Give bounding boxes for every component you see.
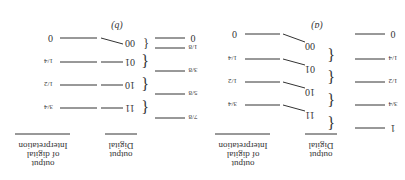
diagram-canvas: (a) 0 1/4 1/2 3/4 1 { { { (0, 0, 405, 180)
svg-text:Digital: Digital (108, 141, 133, 151)
svg-text:10: 10 (125, 80, 135, 91)
svg-text:{: { (143, 37, 149, 51)
svg-text:1/2: 1/2 (388, 77, 397, 85)
svg-text:3/4: 3/4 (44, 103, 53, 111)
svg-text:{: { (327, 47, 335, 64)
svg-text:output: output (109, 150, 133, 160)
svg-text:11: 11 (125, 103, 135, 114)
svg-text:0: 0 (48, 33, 53, 44)
quantization-diagram: (a) 0 1/4 1/2 3/4 1 { { { (0, 0, 405, 180)
svg-text:00: 00 (305, 41, 315, 52)
svg-text:01: 01 (125, 57, 135, 68)
svg-text:{: { (141, 53, 149, 70)
svg-text:10: 10 (305, 87, 315, 98)
panel-a: (a) 0 1/4 1/2 3/4 1 { { { (215, 20, 397, 169)
svg-text:1/4: 1/4 (44, 57, 53, 65)
svg-text:0: 0 (232, 29, 237, 40)
svg-text:of digital: of digital (26, 150, 59, 160)
svg-text:3/4: 3/4 (388, 100, 397, 108)
svg-text:0: 0 (391, 29, 396, 40)
panel-b: (b) 0 1/8 3/8 5/8 7/8 { { { { 00 01 1 (15, 20, 197, 169)
svg-text:output: output (31, 159, 55, 169)
svg-text:0: 0 (191, 33, 196, 44)
svg-text:1/2: 1/2 (228, 77, 237, 85)
svg-text:3/8: 3/8 (188, 66, 197, 74)
svg-text:3/4: 3/4 (228, 100, 237, 108)
svg-text:Interpretation: Interpretation (18, 141, 67, 151)
svg-text:{: { (141, 76, 149, 93)
svg-text:7/8: 7/8 (188, 113, 197, 121)
svg-text:5/8: 5/8 (188, 89, 197, 97)
svg-text:1: 1 (391, 123, 396, 134)
svg-text:1/8: 1/8 (188, 43, 197, 51)
panel-b-label: (b) (111, 20, 123, 32)
svg-text:{: { (141, 99, 149, 116)
svg-text:output: output (231, 159, 255, 169)
svg-text:01: 01 (305, 64, 315, 75)
svg-text:1/4: 1/4 (388, 54, 397, 62)
svg-text:output: output (309, 150, 333, 160)
svg-text:{: { (327, 69, 335, 86)
svg-text:1/4: 1/4 (228, 54, 237, 62)
svg-text:11: 11 (305, 110, 315, 121)
svg-text:{: { (327, 92, 335, 109)
svg-text:1/2: 1/2 (44, 80, 53, 88)
svg-text:00: 00 (125, 38, 135, 49)
panel-a-label: (a) (311, 20, 323, 32)
svg-text:{: { (327, 115, 335, 132)
